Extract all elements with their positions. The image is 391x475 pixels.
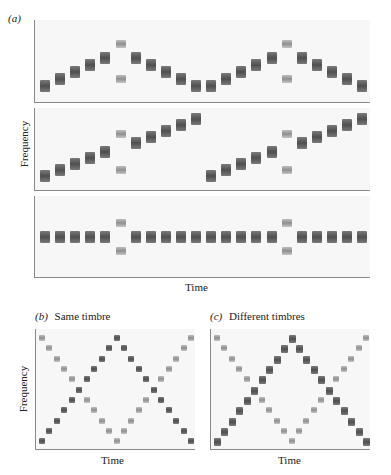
tone-block — [311, 407, 317, 413]
tone-block — [181, 345, 187, 351]
tone-block — [176, 119, 186, 131]
tone-block — [312, 131, 322, 143]
panel-a-row-1 — [34, 20, 370, 103]
tone-block — [282, 247, 292, 255]
tone-block — [84, 397, 90, 403]
tone-block — [259, 376, 266, 384]
tone-block — [318, 376, 325, 384]
tone-block — [114, 438, 120, 444]
tone-block — [158, 397, 164, 403]
panel-a-label: (a) — [8, 12, 21, 24]
tone-block — [327, 231, 337, 243]
tone-block — [341, 366, 347, 372]
tone-block — [173, 418, 179, 424]
tone-block — [85, 152, 95, 164]
tone-block — [91, 366, 97, 372]
tone-block — [136, 407, 142, 413]
tone-block — [348, 418, 355, 426]
tone-block — [161, 125, 171, 137]
tone-block — [357, 80, 367, 92]
tone-block — [128, 356, 134, 362]
tone-block — [312, 59, 322, 71]
tone-block — [259, 397, 265, 403]
tone-block — [289, 335, 296, 343]
tone-block — [214, 438, 221, 446]
tone-block — [244, 397, 251, 405]
tone-block — [40, 170, 50, 182]
tone-block — [267, 52, 277, 64]
tone-block — [342, 119, 352, 131]
tone-block — [342, 73, 352, 85]
y-axis-label-b: Frequency — [17, 359, 29, 419]
tone-block — [318, 397, 324, 403]
tone-block — [191, 80, 201, 92]
tone-block — [221, 231, 231, 243]
tone-block — [116, 247, 126, 255]
tone-block — [188, 335, 194, 341]
panel-b-letter: (b) — [35, 310, 48, 322]
panel-a-letter: (a) — [8, 12, 21, 24]
tone-block — [166, 366, 172, 372]
tone-block — [116, 40, 126, 48]
tone-block — [312, 231, 322, 243]
y-axis-label-a: Frequency — [18, 114, 30, 174]
tone-block — [236, 231, 246, 243]
tone-block — [297, 52, 307, 64]
tone-block — [236, 366, 242, 372]
tone-block — [191, 231, 201, 243]
tone-block — [303, 356, 310, 364]
tone-block — [333, 376, 339, 382]
tone-block — [136, 366, 142, 372]
tone-block — [282, 75, 292, 83]
panel-c-title: (c) Different timbres — [210, 310, 305, 322]
tone-block — [311, 366, 318, 374]
tone-block — [54, 356, 60, 362]
tone-block — [214, 335, 220, 341]
tone-block — [61, 407, 67, 413]
tone-block — [281, 345, 288, 353]
tone-block — [296, 428, 302, 434]
tone-block — [251, 231, 261, 243]
tone-block — [327, 66, 337, 78]
tone-block — [55, 231, 65, 243]
tone-block — [121, 428, 127, 434]
tone-block — [297, 231, 307, 243]
tone-block — [40, 80, 50, 92]
tone-block — [266, 407, 272, 413]
x-axis-label-b: Time — [101, 454, 124, 466]
tone-block — [85, 59, 95, 71]
tone-block — [221, 345, 227, 351]
tone-block — [363, 335, 369, 341]
tone-block — [40, 231, 50, 243]
tone-block — [116, 75, 126, 83]
tone-block — [327, 125, 337, 137]
tone-block — [191, 113, 201, 125]
tone-block — [236, 66, 246, 78]
x-axis-label-c: Time — [278, 454, 301, 466]
panel-b-title-text: Same timbre — [55, 310, 111, 322]
tone-block — [266, 366, 273, 374]
tone-block — [85, 231, 95, 243]
tone-block — [181, 428, 187, 434]
panel-c-letter: (c) — [210, 310, 222, 322]
tone-block — [121, 345, 127, 351]
tone-block — [221, 73, 231, 85]
tone-block — [116, 219, 126, 227]
panel-c-plot — [210, 329, 370, 450]
tone-block — [244, 376, 250, 382]
tone-block — [146, 131, 156, 143]
tone-block — [341, 407, 348, 415]
tone-block — [106, 345, 112, 351]
tone-block — [221, 164, 231, 176]
tone-block — [176, 231, 186, 243]
tone-block — [251, 152, 261, 164]
tone-block — [251, 59, 261, 71]
tone-block — [206, 170, 216, 182]
tone-block — [100, 231, 110, 243]
tone-block — [267, 231, 277, 243]
tone-block — [161, 231, 171, 243]
tone-block — [54, 418, 60, 424]
tone-block — [282, 166, 292, 174]
tone-block — [70, 66, 80, 78]
panel-b-plot — [35, 329, 195, 450]
